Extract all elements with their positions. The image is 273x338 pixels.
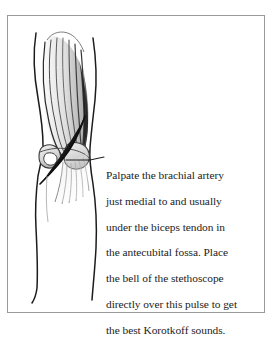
annotation-text-block: Palpate the brachial artery just medial … [106,156,248,338]
annotation-line-5: the bell of the stethoscope [106,272,248,285]
annotation-line-1: Palpate the brachial artery [106,169,248,182]
annotation-line-4: the antecubital fossa. Place [106,246,248,259]
annotation-line-2: just medial to and usually [106,195,248,208]
annotation-line-6: directly over this pulse to get [106,298,248,311]
annotation-line-7: the best Korotkoff sounds. [106,324,248,337]
annotation-line-3: under the biceps tendon in [106,221,248,234]
